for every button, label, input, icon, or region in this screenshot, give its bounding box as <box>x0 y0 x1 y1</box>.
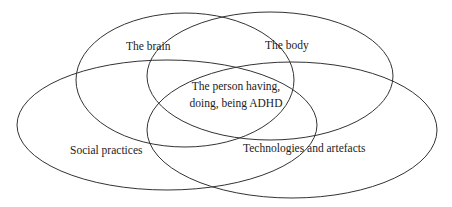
ellipse-body <box>147 12 393 140</box>
center-line-1: The person having, <box>166 79 306 93</box>
label-social: Social practices <box>70 143 142 157</box>
label-center: The person having, doing, being ADHD <box>166 79 306 110</box>
label-brain: The brain <box>126 39 170 53</box>
label-body: The body <box>265 38 309 52</box>
venn-diagram: The brain The body The person having, do… <box>0 0 452 207</box>
center-line-2: doing, being ADHD <box>166 96 306 110</box>
label-tech: Technologies and artefacts <box>243 141 365 155</box>
